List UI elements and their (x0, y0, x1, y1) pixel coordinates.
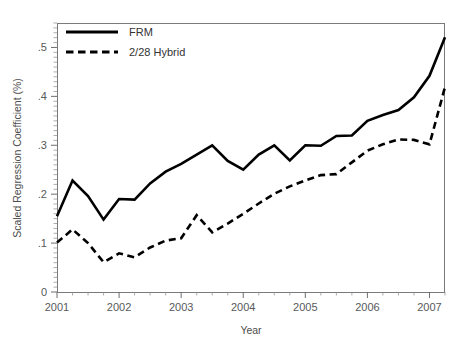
x-tick-label: 2007 (417, 301, 441, 313)
legend-label: 2/28 Hybrid (129, 46, 185, 58)
page-footer-artifact (0, 336, 461, 348)
y-tick-label: 0 (41, 286, 47, 298)
x-tick-label: 2003 (169, 301, 193, 313)
x-axis-title: Year (240, 324, 262, 336)
legend-label: FRM (129, 26, 153, 38)
y-axis-title: Scaled Regression Coefficient (%) (11, 78, 23, 238)
y-tick-label: .5 (38, 41, 47, 53)
y-tick-label: .4 (38, 90, 47, 102)
line-chart: 2001200220032004200520062007 0.1.2.3.4.5… (0, 0, 461, 348)
x-tick-label: 2005 (293, 301, 317, 313)
y-tick-label: .1 (38, 237, 47, 249)
y-tick-label: .3 (38, 139, 47, 151)
figure-container: 2001200220032004200520062007 0.1.2.3.4.5… (0, 0, 461, 348)
x-tick-label: 2006 (355, 301, 379, 313)
x-tick-label: 2001 (45, 301, 69, 313)
y-tick-label: .2 (38, 188, 47, 200)
x-tick-label: 2004 (231, 301, 255, 313)
x-tick-label: 2002 (107, 301, 131, 313)
